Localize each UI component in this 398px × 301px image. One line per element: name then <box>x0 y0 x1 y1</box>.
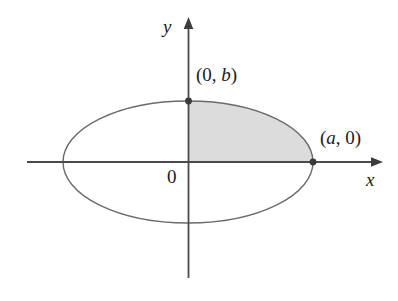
ellipse-figure: y x 0 (0, b) (a, 0) <box>0 0 398 301</box>
point-label-top-variable: b <box>221 64 231 85</box>
y-axis-arrowhead-icon <box>184 17 194 29</box>
x-axis-label: x <box>366 170 374 189</box>
point-label-top-prefix: (0, <box>196 64 221 85</box>
shaded-quadrant-region <box>188 101 313 162</box>
point-label-right-suffix: , 0) <box>336 127 361 148</box>
figure-canvas <box>0 0 398 301</box>
x-axis-arrowhead-icon <box>371 157 383 167</box>
point-label-top-suffix: ) <box>231 64 237 85</box>
point-label-right-vertex: (a, 0) <box>320 128 361 147</box>
y-axis-label: y <box>163 17 171 36</box>
origin-label: 0 <box>167 167 177 186</box>
point-marker-right-vertex <box>310 159 317 166</box>
point-marker-top-vertex <box>185 98 192 105</box>
point-label-top-vertex: (0, b) <box>196 65 237 84</box>
point-label-right-variable: a <box>326 127 336 148</box>
